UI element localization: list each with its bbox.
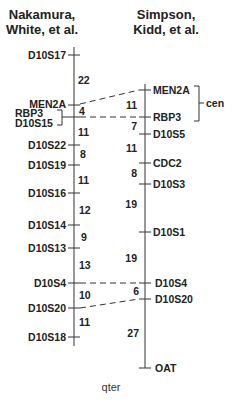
left-label-D10S4: D10S4 [34,277,66,289]
left-distance: 12 [79,204,91,216]
left-distance: 13 [79,259,91,271]
left-distance: 22 [78,74,90,86]
right-label-D10S20: D10S20 [155,293,193,305]
right-label-D10S4: D10S4 [155,277,187,289]
left-distance: 8 [80,148,86,160]
left-distance: 4 [79,105,85,117]
right-distance: 19 [125,252,137,264]
right-label-D10S5: D10S5 [153,128,185,140]
right-label-CDC2: CDC2 [153,157,182,169]
left-label-D10S14: D10S14 [28,219,66,231]
right-label-D10S3: D10S3 [153,178,185,190]
right-distance: 11 [126,99,137,111]
right-label-D10S1: D10S1 [153,226,185,238]
left-label-D10S18: D10S18 [28,331,66,343]
left-label-D10S13: D10S13 [28,242,66,254]
left-distance: 9 [81,231,87,243]
left-label-D10S15: D10S15 [15,117,53,129]
right-map-title-line1: Simpson, [137,7,196,22]
right-label-OAT: OAT [155,362,177,374]
left-label-D10S16: D10S16 [28,187,66,199]
right-distance: 7 [131,120,137,132]
left-map-title-line1: Nakamura, [9,7,75,22]
right-map-title-line2: Kidd, et al. [133,22,199,37]
left-map-title-line2: White, et al. [6,22,78,37]
right-distance: 11 [126,142,137,154]
linkage-map-diagram: Nakamura, White, et al. Simpson, Kidd, e… [0,0,240,405]
left-distance: 11 [78,174,89,186]
right-distance: 19 [125,198,137,210]
right-label-MEN2A: MEN2A [153,84,190,96]
left-label-D10S22: D10S22 [28,139,66,151]
left-label-D10S17: D10S17 [28,49,66,61]
left-distance: 11 [78,126,89,138]
left-bracket-RBP3-D10S15 [57,110,62,125]
left-distance: 10 [79,289,91,301]
right-distance: 27 [127,327,139,339]
right-distance: 6 [133,285,139,297]
left-label-D10S19: D10S19 [28,159,66,171]
right-distance: 8 [131,167,137,179]
qter-label: qter [102,381,121,393]
centromere-label: cen [206,97,224,109]
right-label-RBP3: RBP3 [153,111,181,123]
left-label-D10S20: D10S20 [28,302,66,314]
centromere-bracket [194,86,199,121]
left-distance: 11 [79,316,90,328]
